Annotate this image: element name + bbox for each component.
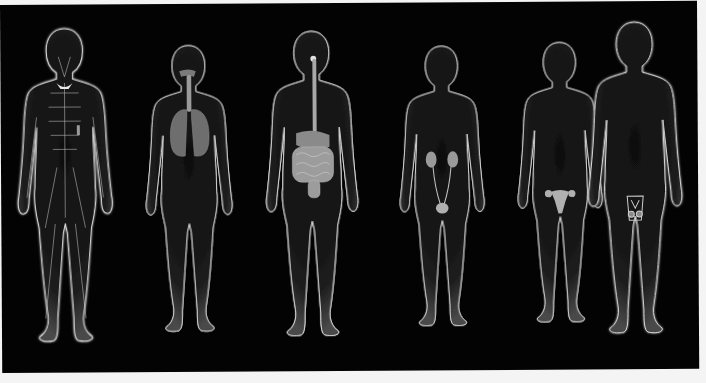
- kidney-right-icon: [447, 151, 458, 167]
- esophagus-icon: [312, 59, 316, 137]
- figure-male-reproductive: Male reproductive system: [584, 17, 686, 344]
- respiratory-body-icon: [142, 34, 236, 349]
- illustration-panel: Lymphatic system Respiratory system Dige…: [0, 1, 699, 373]
- kidney-left-icon: [426, 151, 437, 167]
- male-body-icon: [584, 17, 686, 344]
- figure-digestive: Digestive system: [262, 23, 362, 350]
- trachea-icon: [187, 75, 192, 112]
- figure-lymphatic: Lymphatic system: [12, 26, 118, 349]
- digestive-body-icon: [262, 23, 362, 350]
- bladder-icon: [436, 203, 449, 214]
- figure-respiratory: Respiratory system: [142, 34, 236, 349]
- urinary-body-icon: [396, 30, 488, 347]
- figure-urinary: Urinary system: [396, 30, 488, 347]
- lymphatic-body-icon: [12, 26, 118, 349]
